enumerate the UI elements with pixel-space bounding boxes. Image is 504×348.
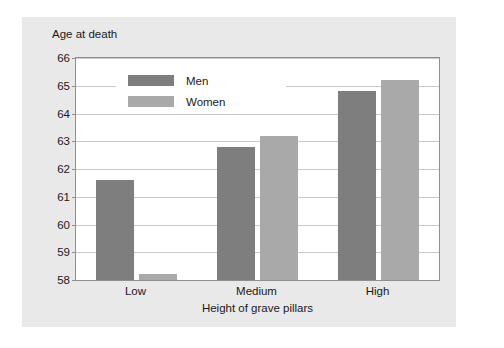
legend-item-men: Men — [128, 70, 225, 91]
legend-swatch-women-icon — [128, 96, 174, 107]
bar-women-low — [139, 274, 177, 280]
y-axis-tick-mark — [72, 252, 76, 253]
plot-area: Men Women 585960616263646566 — [75, 57, 440, 281]
y-axis-tick-label: 58 — [57, 274, 70, 286]
x-axis-category-label-high: High — [366, 285, 390, 297]
y-axis-tick-label: 64 — [57, 108, 70, 120]
y-axis-tick-label: 61 — [57, 191, 70, 203]
x-axis-caption: Height of grave pillars — [75, 302, 440, 314]
y-axis-tick-mark — [72, 58, 76, 59]
y-axis-caption: Age at death — [52, 28, 117, 40]
y-axis-tick-mark — [72, 114, 76, 115]
bar-men-medium — [217, 147, 255, 280]
chart-legend: Men Women — [128, 70, 225, 112]
y-axis-tick-mark — [72, 197, 76, 198]
bar-men-low — [96, 180, 134, 280]
bar-men-high — [338, 91, 376, 280]
y-axis-tick-label: 60 — [57, 219, 70, 231]
figure-panel: Age at death Men Women 58596061626364656… — [22, 17, 456, 327]
y-axis-tick-mark — [72, 225, 76, 226]
x-axis-category-label-low: Low — [125, 285, 146, 297]
y-axis-tick-mark — [72, 169, 76, 170]
y-axis-tick-mark — [72, 141, 76, 142]
legend-label-women: Women — [186, 96, 225, 108]
y-axis-tick-mark — [72, 280, 76, 281]
y-axis-tick-label: 62 — [57, 163, 70, 175]
y-axis-tick-label: 65 — [57, 80, 70, 92]
y-axis-tick-label: 63 — [57, 135, 70, 147]
gridline — [76, 58, 439, 59]
y-axis-tick-label: 66 — [57, 52, 70, 64]
bar-women-high — [381, 80, 419, 280]
legend-swatch-men-icon — [128, 75, 174, 86]
legend-item-women: Women — [128, 91, 225, 112]
legend-label-men: Men — [186, 75, 208, 87]
y-axis-tick-label: 59 — [57, 246, 70, 258]
bar-women-medium — [260, 136, 298, 280]
x-axis-category-label-medium: Medium — [236, 285, 277, 297]
y-axis-tick-mark — [72, 86, 76, 87]
